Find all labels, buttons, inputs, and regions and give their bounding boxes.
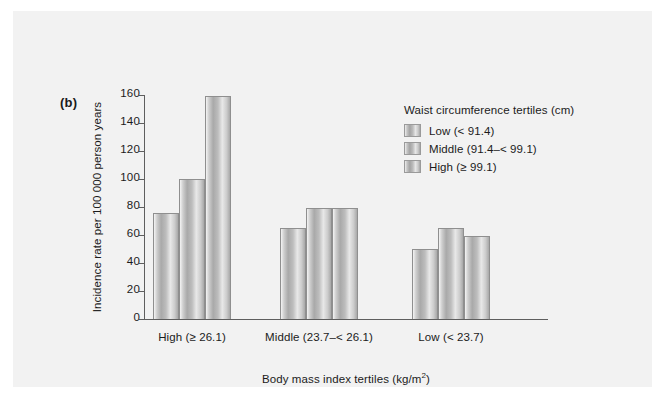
legend-swatch-icon xyxy=(404,160,421,173)
y-axis-title: Incidence rate per 100 000 person years xyxy=(91,95,105,319)
bar xyxy=(412,249,438,319)
x-axis-title: Body mass index tertiles (kg/m2) xyxy=(144,371,548,385)
x-axis-group-label: Low (< 23.7) xyxy=(418,331,483,343)
legend-item-label: Low (< 91.4) xyxy=(429,125,494,137)
x-axis-title-text: Body mass index tertiles (kg/m xyxy=(262,373,422,385)
bar xyxy=(464,236,490,319)
legend-title: Waist circumference tertiles (cm) xyxy=(404,104,574,116)
legend-item: High (≥ 99.1) xyxy=(404,158,574,175)
legend-item-label: Middle (91.4–< 99.1) xyxy=(429,143,537,155)
x-axis-group-label: Middle (23.7–< 26.1) xyxy=(265,331,373,343)
chart-panel: (b) Incidence rate per 100 000 person ye… xyxy=(13,11,652,387)
y-axis-tick-label: 120 xyxy=(120,143,140,155)
y-axis-tick-label: 160 xyxy=(120,87,140,99)
y-axis-tick-label: 20 xyxy=(127,283,140,295)
legend-swatch-icon xyxy=(404,142,421,155)
legend-swatch-icon xyxy=(404,124,421,137)
bar xyxy=(332,208,358,319)
bar xyxy=(153,213,179,319)
bar xyxy=(179,179,205,319)
figure-root: (b) Incidence rate per 100 000 person ye… xyxy=(0,0,665,398)
y-axis-tick-label: 80 xyxy=(127,199,140,211)
y-axis-tick-label: 0 xyxy=(133,311,140,323)
y-axis-tick-label: 40 xyxy=(127,255,140,267)
y-axis-line xyxy=(144,95,145,320)
x-axis-title-tail: ) xyxy=(426,373,430,385)
legend-item: Middle (91.4–< 99.1) xyxy=(404,140,574,157)
legend-item-label: High (≥ 99.1) xyxy=(429,161,497,173)
bar xyxy=(205,96,231,319)
bar xyxy=(438,228,464,319)
legend-item: Low (< 91.4) xyxy=(404,122,574,139)
bar xyxy=(306,208,332,319)
y-axis-tick-label: 100 xyxy=(120,171,140,183)
bar xyxy=(280,228,306,319)
x-axis-line xyxy=(144,319,548,320)
x-axis-group-label: High (≥ 26.1) xyxy=(158,331,226,343)
legend-rows: Low (< 91.4)Middle (91.4–< 99.1)High (≥ … xyxy=(404,122,574,175)
panel-label: (b) xyxy=(60,95,77,110)
y-axis-tick-label: 140 xyxy=(120,115,140,127)
y-axis-tick-label: 60 xyxy=(127,227,140,239)
legend: Waist circumference tertiles (cm) Low (<… xyxy=(404,104,574,176)
